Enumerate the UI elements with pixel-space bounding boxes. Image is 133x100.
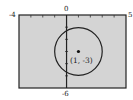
point-label: (1, -3) xyxy=(70,57,93,64)
xmax-label: 5 xyxy=(128,12,132,19)
ymin-label: -6 xyxy=(62,91,69,98)
xmin-label: -4 xyxy=(9,12,16,19)
plot-area xyxy=(19,15,126,88)
center-point xyxy=(77,50,80,53)
axis-zero-label: 0 xyxy=(64,6,68,13)
graph-window xyxy=(0,0,133,100)
